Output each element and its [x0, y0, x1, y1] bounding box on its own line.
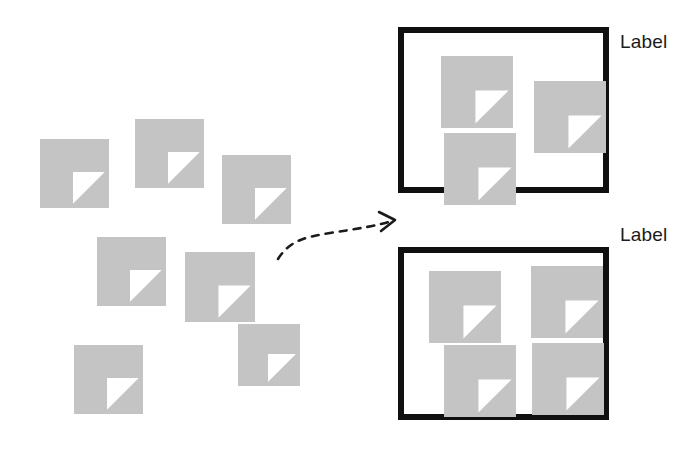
document-icon[interactable]	[40, 139, 109, 208]
document-corner-fold-icon	[218, 285, 250, 317]
document-icon[interactable]	[222, 155, 291, 224]
document-corner-fold-icon	[478, 379, 511, 412]
document-corner-fold-icon	[255, 188, 287, 220]
document-corner-fold-icon	[478, 167, 511, 200]
document-corner-fold-icon	[566, 377, 599, 410]
document-corner-fold-icon	[568, 115, 601, 148]
group-label: Label	[620, 32, 668, 51]
document-icon[interactable]	[441, 56, 513, 128]
document-icon[interactable]	[444, 133, 516, 205]
document-corner-fold-icon	[73, 172, 105, 204]
document-corner-fold-icon	[107, 378, 139, 410]
diagram-canvas: LabelLabel	[0, 0, 698, 451]
document-icon[interactable]	[532, 343, 604, 415]
document-corner-fold-icon	[268, 354, 297, 383]
document-corner-fold-icon	[565, 300, 598, 333]
document-icon[interactable]	[97, 237, 166, 306]
group-label: Label	[620, 225, 668, 244]
document-icon[interactable]	[135, 119, 204, 188]
document-icon[interactable]	[534, 81, 606, 153]
document-corner-fold-icon	[168, 152, 200, 184]
document-icon[interactable]	[429, 271, 501, 343]
document-icon[interactable]	[531, 266, 603, 338]
document-corner-fold-icon	[130, 270, 162, 302]
document-icon[interactable]	[238, 324, 300, 386]
document-icon[interactable]	[444, 345, 516, 417]
document-corner-fold-icon	[463, 305, 496, 338]
document-icon[interactable]	[185, 252, 255, 322]
group-box[interactable]	[398, 27, 609, 193]
arrow-shaft	[278, 221, 392, 259]
group-box[interactable]	[398, 247, 609, 420]
document-icon[interactable]	[74, 345, 143, 414]
document-corner-fold-icon	[475, 90, 508, 123]
arrow-head-icon	[379, 212, 395, 231]
